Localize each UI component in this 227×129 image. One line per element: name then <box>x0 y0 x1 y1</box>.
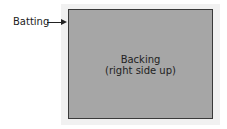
backing-label-line1: Backing <box>69 54 212 65</box>
backing-label-line2: (right side up) <box>69 65 212 76</box>
backing-label: Backing (right side up) <box>69 54 212 76</box>
arrow-head-icon <box>61 19 67 25</box>
backing-layer: Backing (right side up) <box>68 9 213 119</box>
batting-label: Batting <box>13 16 49 27</box>
